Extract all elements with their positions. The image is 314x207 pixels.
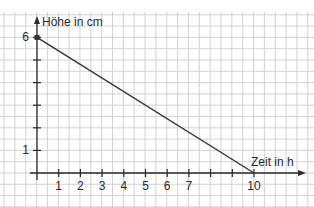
x-tick-label: 5: [142, 179, 149, 193]
y-axis-label: Höhe in cm: [42, 15, 103, 29]
x-tick-label: 3: [99, 179, 106, 193]
x-tick-label: 4: [120, 179, 127, 193]
x-tick-label: 7: [186, 179, 193, 193]
line-chart: 12345671016 Zeit in h Höhe in cm: [0, 0, 314, 207]
x-tick-label: 10: [247, 179, 261, 193]
x-tick-label: 6: [164, 179, 171, 193]
x-axis-label: Zeit in h: [251, 155, 294, 169]
start-point-marker: [35, 35, 40, 40]
x-tick-label: 1: [55, 179, 62, 193]
y-tick-label: 6: [22, 30, 29, 44]
y-tick-label: 1: [22, 143, 29, 157]
x-tick-label: 2: [77, 179, 84, 193]
grid: [0, 12, 314, 207]
